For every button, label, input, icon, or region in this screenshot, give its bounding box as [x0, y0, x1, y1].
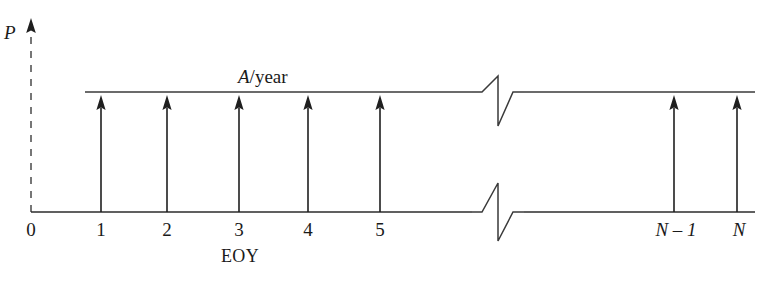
uniform-series-line-group: [85, 76, 755, 126]
cash-flow-svg-canvas: P: [0, 0, 764, 284]
axis-break-upper-icon: [472, 76, 524, 126]
p-axis-label: P: [3, 22, 16, 43]
series-label-period: year: [255, 66, 288, 87]
tick-label-n-minus-1: N – 1: [654, 219, 696, 240]
cash-flow-arrow: [303, 95, 312, 212]
arrowhead-icon: [303, 95, 312, 110]
p-axis-group: P: [3, 18, 36, 212]
arrowhead-icon: [234, 95, 243, 110]
tick-label-4: 4: [303, 219, 313, 240]
tick-label-n: N: [732, 219, 747, 240]
series-label-symbol: A: [236, 66, 250, 87]
tick-label-3: 3: [234, 219, 244, 240]
arrowhead-icon: [669, 95, 678, 110]
tick-label-0: 0: [26, 219, 36, 240]
p-axis-arrowhead-icon: [26, 18, 36, 33]
cash-flow-diagram: P: [0, 0, 764, 284]
tick-label-5: 5: [375, 219, 385, 240]
tick-label-1: 1: [96, 219, 106, 240]
time-axis-group: [31, 183, 755, 241]
tick-label-2: 2: [162, 219, 172, 240]
cash-flow-arrow: [96, 95, 105, 212]
cash-flow-arrow: [162, 95, 171, 212]
cash-flow-arrow: [669, 95, 678, 212]
arrowhead-icon: [732, 95, 741, 110]
tick-labels-group: 0 1 2 3 4 5 N – 1 N: [26, 219, 746, 240]
axis-break-lower-icon: [472, 183, 524, 241]
arrowhead-icon: [375, 95, 384, 110]
eoy-caption: EOY: [221, 246, 259, 266]
cash-flow-arrow: [234, 95, 243, 212]
cash-flow-arrows-group: [96, 95, 741, 212]
cash-flow-arrow: [375, 95, 384, 212]
arrowhead-icon: [162, 95, 171, 110]
arrowhead-icon: [96, 95, 105, 110]
cash-flow-arrow: [732, 95, 741, 212]
series-label: A/year: [236, 66, 288, 87]
